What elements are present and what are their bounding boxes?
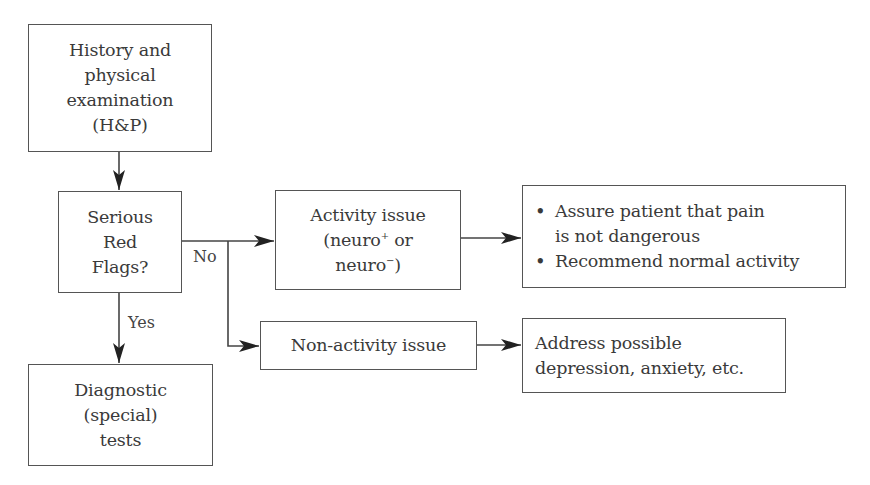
node-activity-actions: Assure patient that pain is not dangerou… xyxy=(522,185,846,288)
node-text: (neuro+ or xyxy=(323,228,413,253)
bullet-text: Recommend normal activity xyxy=(555,251,799,271)
node-text: tests xyxy=(100,428,141,453)
node-text: examination xyxy=(67,88,174,113)
node-text: physical xyxy=(84,63,155,88)
node-text: neuro−) xyxy=(335,253,401,278)
node-text: Red xyxy=(103,230,137,255)
node-text: depression, anxiety, etc. xyxy=(535,356,744,381)
node-text: Activity issue xyxy=(310,203,425,228)
edge-label-no: No xyxy=(193,247,217,266)
node-non-activity-issue: Non-activity issue xyxy=(260,321,477,370)
node-text: Address possible xyxy=(535,331,682,356)
or-text: or xyxy=(389,230,413,250)
node-text: Flags? xyxy=(92,255,149,280)
bullet-text: Assure patient that pain xyxy=(555,201,765,221)
node-red-flags: Serious Red Flags? xyxy=(58,191,182,293)
bullet-item: Assure patient that pain is not dangerou… xyxy=(531,199,799,249)
neuro-negative-text: neuro xyxy=(335,255,386,275)
node-text: Non-activity issue xyxy=(291,333,446,358)
node-text: (H&P) xyxy=(92,113,147,138)
node-history-exam: History and physical examination (H&P) xyxy=(28,24,212,152)
node-text: History and xyxy=(69,38,171,63)
node-diagnostic-tests: Diagnostic (special) tests xyxy=(28,364,213,466)
neuro-positive-text: (neuro xyxy=(323,230,380,250)
bullet-text-continued: is not dangerous xyxy=(555,226,700,246)
node-non-activity-actions: Address possible depression, anxiety, et… xyxy=(522,318,786,393)
node-text: Serious xyxy=(87,205,153,230)
node-activity-issue: Activity issue (neuro+ or neuro−) xyxy=(275,190,461,290)
close-paren-text: ) xyxy=(394,255,401,275)
plus-superscript: + xyxy=(381,230,389,241)
node-text: Diagnostic xyxy=(74,378,166,403)
edge-label-yes: Yes xyxy=(128,313,155,332)
arrow-no-to-non-activity xyxy=(228,241,259,346)
node-text: (special) xyxy=(84,403,158,428)
bullet-item: Recommend normal activity xyxy=(531,249,799,274)
action-bullet-list: Assure patient that pain is not dangerou… xyxy=(531,199,799,274)
minus-superscript: − xyxy=(386,255,394,266)
